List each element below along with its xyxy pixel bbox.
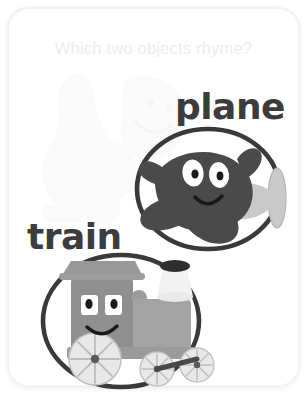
prompt-title: Which two objects rhyme?: [7, 39, 300, 58]
word-label-plane: plane: [175, 89, 285, 125]
airplane-icon: [125, 125, 307, 257]
flashcard: Which two objects rhyme? plane: [7, 7, 300, 387]
locomotive-icon: [29, 247, 219, 397]
plane-illustration[interactable]: [125, 125, 307, 257]
train-illustration[interactable]: [29, 247, 219, 397]
